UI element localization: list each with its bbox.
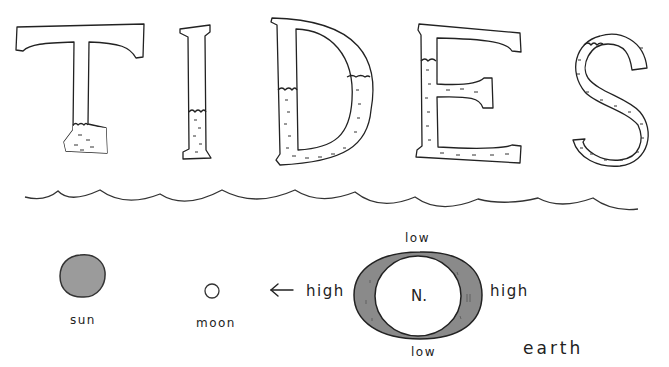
sun-icon <box>60 255 105 297</box>
letter-i <box>180 25 211 159</box>
illustration-canvas <box>0 0 669 367</box>
earth-label: earth <box>523 338 583 358</box>
tide-label-left: high <box>306 282 345 300</box>
moon-label: moon <box>196 316 236 330</box>
letter-e <box>416 24 521 163</box>
wave-line <box>25 190 638 210</box>
earth-center-label: N. <box>411 287 427 305</box>
letter-d <box>271 18 373 165</box>
tide-label-right: high <box>490 282 529 300</box>
tide-label-bottom: low <box>411 345 436 359</box>
tide-label-top: low <box>405 231 430 245</box>
tides-illustration: sun moon high high low low N. earth <box>0 0 669 367</box>
left-arrow-icon <box>271 284 293 296</box>
letter-t <box>16 24 144 153</box>
moon-icon <box>205 284 219 298</box>
letter-s <box>573 34 648 166</box>
sun-label: sun <box>70 313 96 327</box>
